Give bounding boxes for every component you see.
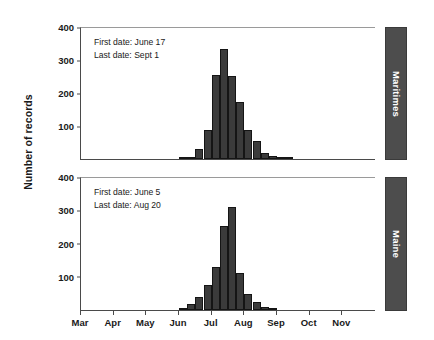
bar <box>261 307 269 310</box>
y-tick-label: 300 <box>58 205 80 216</box>
x-tick-mark <box>178 311 179 315</box>
bar <box>261 153 269 160</box>
y-tick-label: 100 <box>58 121 80 132</box>
bar <box>204 285 212 310</box>
bar <box>195 297 203 310</box>
last-date-maine: Last date: Aug 20 <box>94 199 161 212</box>
bar <box>244 130 252 159</box>
strip-text-maritimes: Maritimes <box>391 70 402 116</box>
annotation-maine: First date: June 5 Last date: Aug 20 <box>94 186 161 212</box>
bar <box>212 267 220 310</box>
x-axis: MarAprMayJunJulAugSepOctNov <box>80 311 375 337</box>
y-tick-label: 200 <box>58 238 80 249</box>
bar <box>179 308 187 310</box>
x-tick-mark <box>211 311 212 315</box>
x-tick-label: Apr <box>104 317 120 328</box>
bar <box>187 304 195 310</box>
bar <box>195 149 203 159</box>
bar <box>228 207 236 310</box>
bar <box>236 273 244 310</box>
x-tick-label: Jul <box>204 317 218 328</box>
y-tick-label: 400 <box>58 172 80 183</box>
last-date-maritimes: Last date: Sept 1 <box>94 49 165 62</box>
bar <box>179 157 187 159</box>
strip-text-maine: Maine <box>391 230 402 258</box>
x-tick-mark <box>309 311 310 315</box>
x-tick-mark <box>243 311 244 315</box>
x-tick-label: Mar <box>72 317 89 328</box>
y-axis-title: Number of records <box>22 62 34 222</box>
y-tick-label: 100 <box>58 271 80 282</box>
figure-root: Number of records First date: June 17 La… <box>0 0 434 340</box>
x-tick-mark <box>276 311 277 315</box>
y-tick-label: 300 <box>58 55 80 66</box>
first-date-maritimes: First date: June 17 <box>94 36 165 49</box>
x-tick-label: Nov <box>332 317 350 328</box>
bar <box>212 75 220 159</box>
y-tick-label: 200 <box>58 88 80 99</box>
bar <box>253 302 261 310</box>
bar <box>236 102 244 159</box>
y-tick-label: 400 <box>58 22 80 33</box>
x-tick-label: Jun <box>170 317 187 328</box>
strip-label-maine: Maine <box>385 177 407 311</box>
x-tick-label: Oct <box>301 317 317 328</box>
x-tick-mark <box>113 311 114 315</box>
panel-maine: First date: June 5 Last date: Aug 20 100… <box>80 177 375 311</box>
bar <box>277 157 285 159</box>
bar <box>228 76 236 159</box>
bar <box>220 226 228 310</box>
panel-maritimes: First date: June 17 Last date: Sept 1 10… <box>80 27 375 160</box>
bar <box>220 49 228 159</box>
bar <box>269 308 277 310</box>
x-tick-label: May <box>136 317 154 328</box>
x-tick-mark <box>341 311 342 315</box>
bar <box>285 157 293 159</box>
x-tick-label: Aug <box>234 317 252 328</box>
annotation-maritimes: First date: June 17 Last date: Sept 1 <box>94 36 165 62</box>
bar <box>253 141 261 159</box>
x-tick-mark <box>145 311 146 315</box>
first-date-maine: First date: June 5 <box>94 186 161 199</box>
bar <box>204 130 212 159</box>
bar <box>269 156 277 159</box>
bar <box>187 157 195 159</box>
strip-label-maritimes: Maritimes <box>385 27 407 160</box>
x-tick-mark <box>80 311 81 315</box>
bar <box>244 294 252 310</box>
x-tick-label: Sep <box>267 317 284 328</box>
